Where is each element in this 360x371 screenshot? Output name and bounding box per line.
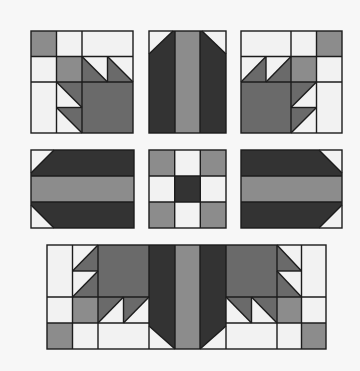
- block-middle-left-horizontal-bar: [31, 150, 134, 228]
- block-bottom-assembled-strip: [47, 245, 326, 349]
- block-center-nine-patch: [149, 150, 226, 228]
- block-top-center-vertical-bar: [149, 31, 226, 133]
- block-top-left-bear-paw: [31, 31, 133, 133]
- block-top-right-bear-paw: [241, 31, 342, 133]
- block-middle-right-horizontal-bar: [241, 150, 342, 228]
- quilt-assembly-diagram: [0, 0, 360, 371]
